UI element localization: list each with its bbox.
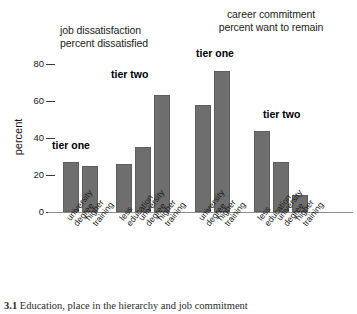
figure-caption: 3.1 Education, place in the hierarchy an… xyxy=(4,300,357,311)
bar-p2-g2-less-education xyxy=(254,131,270,212)
figure-caption-text: Education, place in the hierarchy and jo… xyxy=(20,300,248,311)
figure-caption-number: 3.1 xyxy=(4,300,17,311)
annotation-left-tier-two: tier two xyxy=(111,68,148,80)
annotation-right-tier-one: tier one xyxy=(196,47,234,59)
bar-p2-g1-university-degree xyxy=(195,105,211,212)
figure-container: job dissatisfaction percent dissatisfied… xyxy=(0,0,357,314)
annotation-left-tier-one: tier one xyxy=(52,139,90,151)
plot-area xyxy=(0,0,357,212)
annotation-right-tier-two: tier two xyxy=(263,108,300,120)
